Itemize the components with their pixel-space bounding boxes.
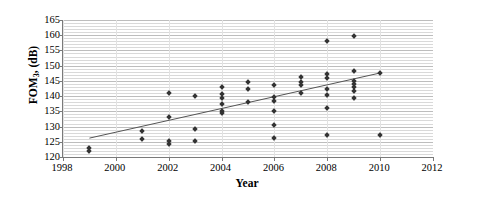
gridline-major [63,50,433,51]
x-tick-mark [169,157,170,161]
gridline-minor [63,60,433,61]
gridline-minor [63,114,433,115]
x-tick-mark [222,157,223,161]
y-tick-mark [59,35,63,36]
x-tick-label: 2008 [316,162,337,173]
gridline-major [63,20,433,21]
y-tick-label: 160 [30,30,60,40]
gridline-major [63,96,433,97]
gridline-minor [63,151,433,152]
x-tick-label: 2010 [369,162,390,173]
y-tick-label: 155 [30,45,60,55]
y-tick-mark [59,20,63,21]
y-tick-mark [59,50,63,51]
scatter-chart: FOM3, (dB) 16516015515014514013513012512… [0,0,481,198]
gridline-major [63,66,433,67]
gridline-major [63,142,433,143]
y-tick-mark [59,127,63,128]
y-tick-label: 165 [30,15,60,25]
gridline-major [63,127,433,128]
gridline-vertical [116,20,117,157]
gridline-minor [63,63,433,64]
gridline-major [63,111,433,112]
gridline-minor [63,41,433,42]
gridline-minor [63,124,433,125]
gridline-minor [63,145,433,146]
gridline-minor [63,148,433,149]
gridline-minor [63,26,433,27]
gridline-minor [63,93,433,94]
y-tick-mark [59,96,63,97]
y-tick-label: 145 [30,76,60,86]
y-tick-mark [59,142,63,143]
x-tick-label: 1998 [52,162,73,173]
gridline-minor [63,108,433,109]
gridline-minor [63,38,433,39]
y-tick-mark [59,81,63,82]
gridline-minor [63,154,433,155]
gridline-minor [63,105,433,106]
y-tick-label: 140 [30,91,60,101]
data-point [219,110,225,116]
gridline-major [63,35,433,36]
x-tick-mark [433,157,434,161]
x-tick-mark [380,157,381,161]
gridline-vertical [63,20,64,157]
gridline-minor [63,75,433,76]
x-tick-label: 2000 [104,162,125,173]
y-tick-label: 135 [30,106,60,116]
gridline-minor [63,130,433,131]
plot-inner [63,20,433,157]
gridline-minor [63,57,433,58]
x-tick-mark [116,157,117,161]
x-tick-mark [327,157,328,161]
y-tick-mark [59,157,63,158]
y-tick-label: 120 [30,152,60,162]
y-tick-label: 130 [30,122,60,132]
x-tick-mark [274,157,275,161]
y-tick-label: 125 [30,137,60,147]
gridline-minor [63,47,433,48]
gridline-minor [63,120,433,121]
gridline-minor [63,53,433,54]
data-point [351,68,357,74]
gridline-minor [63,44,433,45]
gridline-minor [63,29,433,30]
x-tick-label: 2006 [263,162,284,173]
plot-area [62,20,433,158]
gridline-minor [63,23,433,24]
x-tick-label: 2012 [422,162,443,173]
x-tick-mark [63,157,64,161]
y-tick-label: 150 [30,61,60,71]
y-tick-mark [59,111,63,112]
y-tick-mark [59,66,63,67]
data-point [219,101,225,107]
gridline-minor [63,139,433,140]
x-axis-title: Year [62,177,432,189]
gridline-minor [63,69,433,70]
gridline-vertical [169,20,170,157]
gridline-minor [63,32,433,33]
x-tick-label: 2002 [157,162,178,173]
x-tick-label: 2004 [210,162,231,173]
data-point [139,136,145,142]
gridline-minor [63,117,433,118]
